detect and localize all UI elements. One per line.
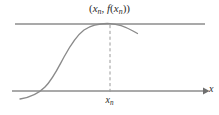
x-tick-label-subscript: n <box>110 99 114 107</box>
point-label-close-paren: ) <box>126 2 130 14</box>
x-tick-label: xn <box>0 95 219 107</box>
x-axis-label: x <box>209 84 213 94</box>
function-maximum-diagram: (xn, f(xn)) xn x <box>0 0 219 115</box>
function-curve <box>20 24 138 99</box>
maximum-point-label: (xn, f(xn)) <box>0 3 219 16</box>
